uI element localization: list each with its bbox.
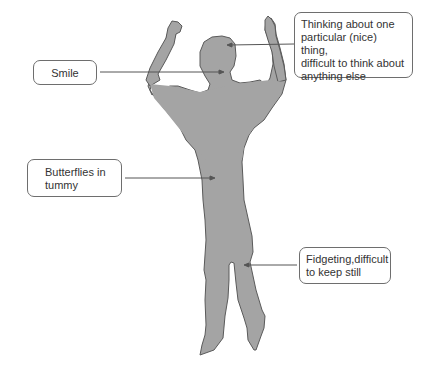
callout-fidgeting: Fidgeting,difficult to keep still [299, 247, 391, 284]
callout-fidgeting-line-1: Fidgeting,difficult [306, 253, 390, 266]
callout-thinking-line-2: particular (nice) thing, [301, 31, 406, 57]
callout-smile: Smile [33, 60, 97, 85]
callout-butterflies-line-2: tummy [45, 179, 121, 192]
callout-butterflies: Butterflies in tummy [27, 159, 122, 197]
callout-thinking-line-1: Thinking about one [301, 18, 406, 31]
callout-thinking-line-3: difficult to think about [301, 57, 406, 70]
callout-fidgeting-line-2: to keep still [306, 266, 390, 279]
human-silhouette [148, 18, 286, 355]
left-arm [146, 21, 182, 86]
callout-thinking-line-4: anything else [301, 70, 406, 83]
callout-thinking: Thinking about one particular (nice) thi… [294, 12, 413, 78]
callout-butterflies-line-1: Butterflies in [45, 166, 121, 179]
callout-smile-line-1: Smile [34, 67, 96, 80]
